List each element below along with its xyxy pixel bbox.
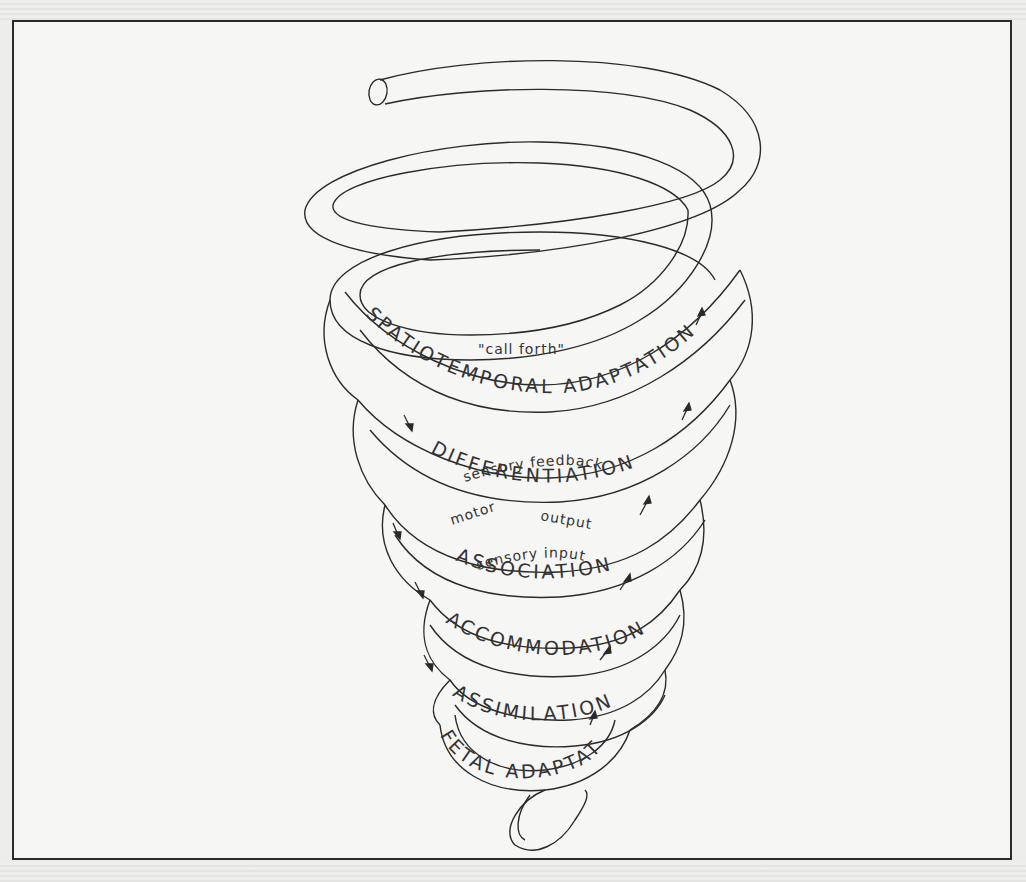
spiral-diagram: SPATIOTEMPORAL ADAPTATION DIFFERENTIATIO… [0,0,1026,882]
arrow-down-icon [393,523,401,539]
process-label-motor: motor [448,498,498,528]
process-label-output: output [539,507,593,532]
arrow-up-icon [696,308,705,325]
arrow-down-icon [415,582,424,598]
arrow-up-icon [682,403,691,420]
arrow-up-icon [640,496,651,515]
arrow-down-icon [404,415,413,431]
arrow-down-icon [424,655,433,671]
process-label-call-forth: "call forth" [478,341,565,357]
tube-end-icon [367,78,389,107]
stage-label-accommodation: ACCOMMODATION [443,607,650,659]
